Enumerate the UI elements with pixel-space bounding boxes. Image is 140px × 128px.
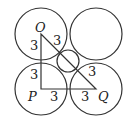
circle-top-right <box>70 8 122 60</box>
triangle-OPQ <box>41 34 96 89</box>
point-P-label: P <box>27 89 37 104</box>
point-Q-label: Q <box>98 89 109 104</box>
label-oq-upper: 3 <box>53 33 61 48</box>
label-op-lower: 3 <box>30 67 38 82</box>
label-op-upper: 3 <box>30 38 38 53</box>
geometry-diagram: O P Q 3 3 3 3 3 3 <box>0 0 140 128</box>
label-pq-left: 3 <box>50 89 58 104</box>
point-O-label: O <box>35 20 46 35</box>
label-pq-right: 3 <box>81 89 89 104</box>
label-oq-lower: 3 <box>88 64 96 79</box>
